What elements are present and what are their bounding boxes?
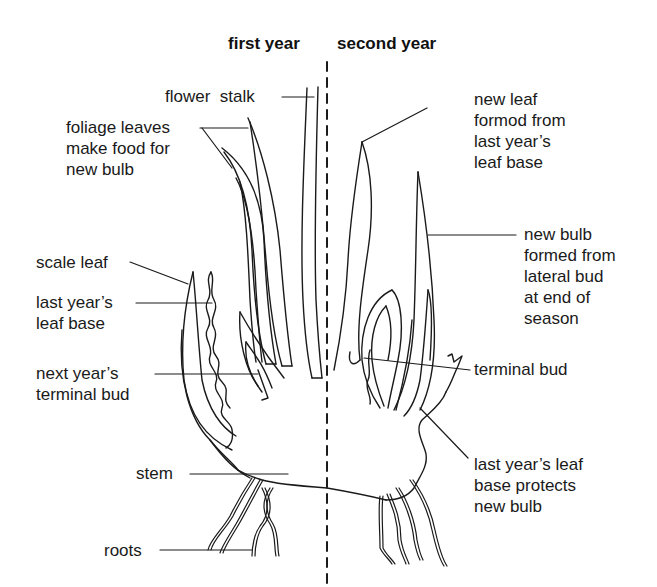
leader-lines bbox=[130, 97, 516, 550]
label-scale-leaf: scale leaf bbox=[36, 252, 108, 273]
label-last-years-leaf-base-protects: last year’s leaf base protects new bulb bbox=[474, 454, 583, 517]
leader-last-years-leaf-base-protects bbox=[420, 408, 468, 458]
leader-foliage-leaves-2 bbox=[202, 128, 232, 168]
first-year-bulb bbox=[181, 87, 327, 488]
leader-scale-leaf bbox=[130, 262, 188, 284]
label-flower-stalk: flower stalk bbox=[165, 86, 255, 107]
label-new-bulb: new bulb formed from lateral bud at end … bbox=[524, 224, 616, 329]
flower-stalk-line-1 bbox=[302, 88, 312, 378]
label-stem: stem bbox=[136, 463, 173, 484]
heading-second-year: second year bbox=[337, 34, 436, 54]
label-roots: roots bbox=[104, 540, 142, 561]
second-year-bulb bbox=[327, 142, 462, 500]
label-last-years-leaf-base: last year’s leaf base bbox=[36, 292, 113, 334]
label-new-leaf: new leaf formod from last year’s leaf ba… bbox=[474, 89, 566, 173]
heading-first-year: first year bbox=[228, 34, 300, 54]
label-foliage-leaves: foliage leaves make food for new bulb bbox=[66, 117, 170, 180]
label-terminal-bud: terminal bud bbox=[474, 359, 568, 380]
flower-stalk-line-2 bbox=[315, 87, 322, 378]
bulb-life-cycle-diagram: first year second year flower stalk foli… bbox=[0, 0, 657, 587]
label-next-years-terminal-bud: next year’s terminal bud bbox=[36, 363, 130, 405]
leader-new-leaf bbox=[362, 108, 427, 142]
